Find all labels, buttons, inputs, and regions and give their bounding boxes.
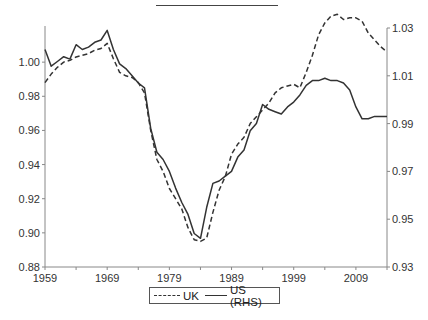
solid-line-swatch-icon	[205, 295, 227, 296]
x-tick-label: 1999	[281, 272, 305, 284]
legend-label-us: US (RHS)	[230, 284, 273, 308]
right-y-tick-label: 0.99	[392, 118, 413, 130]
x-tick-label: 1979	[157, 272, 181, 284]
chart-tick-labels: 0.880.900.920.940.960.981.000.930.950.97…	[19, 22, 414, 284]
x-tick-label: 1989	[219, 272, 243, 284]
left-y-tick-label: 0.98	[19, 90, 40, 102]
left-y-tick-label: 0.90	[19, 227, 40, 239]
right-y-tick-label: 0.97	[392, 165, 413, 177]
legend-label-uk: UK	[183, 290, 199, 302]
left-y-tick-label: 0.92	[19, 193, 40, 205]
uk-series-line	[45, 14, 387, 241]
x-tick-label: 2009	[344, 272, 368, 284]
right-y-tick-label: 0.93	[392, 261, 413, 273]
x-tick-label: 1969	[95, 272, 119, 284]
chart-lines	[45, 14, 387, 241]
us-series-line	[45, 30, 387, 238]
chart-legend: UK US (RHS)	[149, 287, 280, 304]
right-y-tick-label: 1.01	[392, 70, 413, 82]
right-y-tick-label: 0.95	[392, 213, 413, 225]
left-y-tick-label: 0.94	[19, 159, 40, 171]
legend-item-us: US (RHS)	[205, 284, 273, 308]
right-y-tick-label: 1.03	[392, 22, 413, 34]
left-y-tick-label: 0.96	[19, 124, 40, 136]
legend-item-uk: UK	[154, 290, 199, 302]
x-tick-label: 1959	[33, 272, 57, 284]
dashed-line-swatch-icon	[154, 295, 180, 296]
line-chart: 0.880.900.920.940.960.981.000.930.950.97…	[0, 0, 428, 285]
chart-axes	[42, 26, 390, 270]
left-y-tick-label: 1.00	[19, 56, 40, 68]
